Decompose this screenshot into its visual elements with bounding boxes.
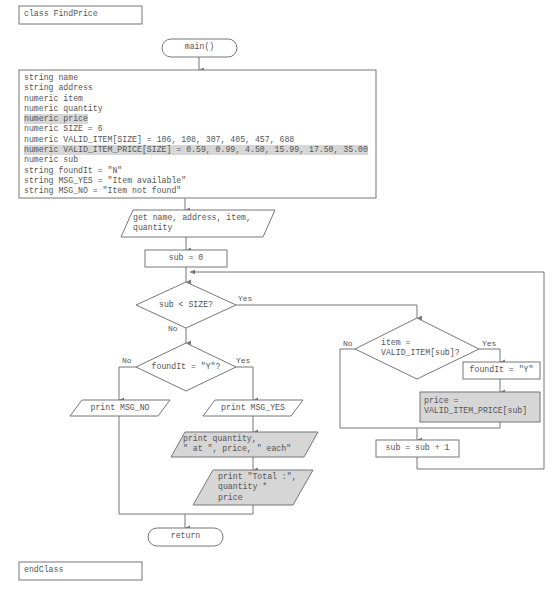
class-footer: endClass	[24, 565, 63, 575]
declaration-line: numeric price	[24, 114, 88, 124]
init-step: sub = 0	[145, 253, 227, 263]
declaration-line: string address	[24, 83, 93, 93]
found-no-label: No	[122, 356, 132, 365]
declaration-line: numeric SIZE = 6	[24, 124, 103, 134]
declaration-line: numeric VALID_ITEM[SIZE] = 106, 108, 307…	[24, 135, 294, 145]
input-step: get name, address, item, quantity	[133, 213, 251, 234]
print-no: print MSG_NO	[72, 403, 168, 413]
print-yes: print MSG_YES	[205, 403, 301, 413]
start-terminal: main()	[162, 42, 237, 52]
end-terminal: return	[148, 531, 223, 541]
declaration-line: numeric VALID_ITEM_PRICE[SIZE] = 0.59, 0…	[24, 145, 368, 155]
set-found: foundIt = "Y"	[463, 365, 540, 375]
print-each: print quantity, " at ", price, " each"	[183, 434, 291, 455]
loop-decision: sub < SIZE?	[136, 300, 236, 310]
declaration-line: numeric item	[24, 94, 83, 104]
declaration-line: string MSG_YES = "Item available"	[24, 176, 186, 186]
match-decision: item = VALID_ITEM[sub]?	[381, 338, 460, 359]
declaration-line: string MSG_NO = "Item not found"	[24, 186, 181, 196]
declaration-line: string name	[24, 73, 78, 83]
declaration-line: string foundIt = "N"	[24, 166, 122, 176]
class-header: class FindPrice	[24, 9, 98, 19]
declaration-line: numeric quantity	[24, 104, 103, 114]
set-price: price = VALID_ITEM_PRICE[sub]	[424, 396, 527, 417]
declaration-line: numeric sub	[24, 155, 78, 165]
loop-no-label: No	[168, 324, 178, 333]
found-yes-label: Yes	[236, 356, 250, 365]
increment: sub = sub + 1	[376, 443, 459, 453]
loop-yes-label: Yes	[238, 294, 252, 303]
match-yes-label: Yes	[482, 339, 496, 348]
match-no-label: No	[343, 339, 353, 348]
declarations-list: string namestring addressnumeric itemnum…	[24, 73, 368, 197]
print-total: print "Total :", quantity * price	[218, 472, 297, 503]
found-decision: foundIt = "Y"?	[136, 362, 236, 372]
